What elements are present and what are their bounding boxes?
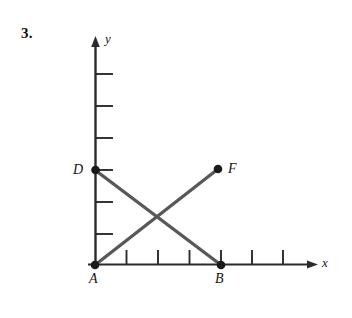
point-label-A: A	[89, 272, 98, 286]
x-axis-label: x	[322, 256, 328, 269]
point-A	[91, 261, 100, 270]
coordinate-plane	[0, 0, 352, 318]
y-axis-ticks	[96, 74, 113, 234]
point-label-F: F	[228, 162, 237, 176]
y-axis-label: y	[105, 32, 111, 45]
point-B	[217, 261, 226, 270]
point-label-B: B	[215, 272, 224, 286]
figure-container: 3.	[0, 0, 352, 318]
y-axis-arrowhead	[91, 36, 100, 47]
point-F	[214, 165, 223, 174]
point-label-D: D	[73, 163, 83, 177]
point-D	[91, 166, 100, 175]
x-axis-arrowhead	[307, 260, 318, 268]
